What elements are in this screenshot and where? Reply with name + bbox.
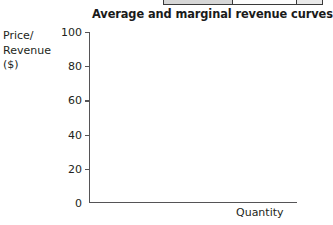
- top-table-strip: [163, 0, 323, 5]
- chart-title: Average and marginal revenue curves: [92, 7, 317, 21]
- x-axis-line: [89, 202, 297, 203]
- x-axis-label: Quantity: [236, 206, 284, 219]
- y-axis-label-line-1: Price/: [3, 29, 63, 44]
- y-axis-label-line-2: Revenue: [3, 44, 63, 59]
- y-tick-mark: [85, 100, 90, 101]
- table-cell: [296, 0, 323, 5]
- y-tick-mark: [85, 66, 90, 67]
- y-axis-line: [89, 32, 90, 203]
- y-tick-label: 100: [61, 26, 82, 39]
- y-tick-label: 40: [68, 128, 82, 141]
- y-tick-mark: [85, 32, 90, 33]
- y-axis-label: Price/ Revenue ($): [3, 29, 63, 73]
- y-tick-label: 20: [68, 162, 82, 175]
- y-tick-label: 80: [68, 60, 82, 73]
- table-cell: [163, 0, 232, 5]
- y-tick-label: 60: [68, 94, 82, 107]
- y-axis-label-line-3: ($): [3, 58, 63, 73]
- y-tick-mark: [85, 135, 90, 136]
- table-cell: [232, 0, 296, 5]
- y-tick-label: 0: [75, 197, 82, 210]
- y-tick-mark: [85, 169, 90, 170]
- plot-area: 100 80 60 40 20 0: [89, 32, 297, 203]
